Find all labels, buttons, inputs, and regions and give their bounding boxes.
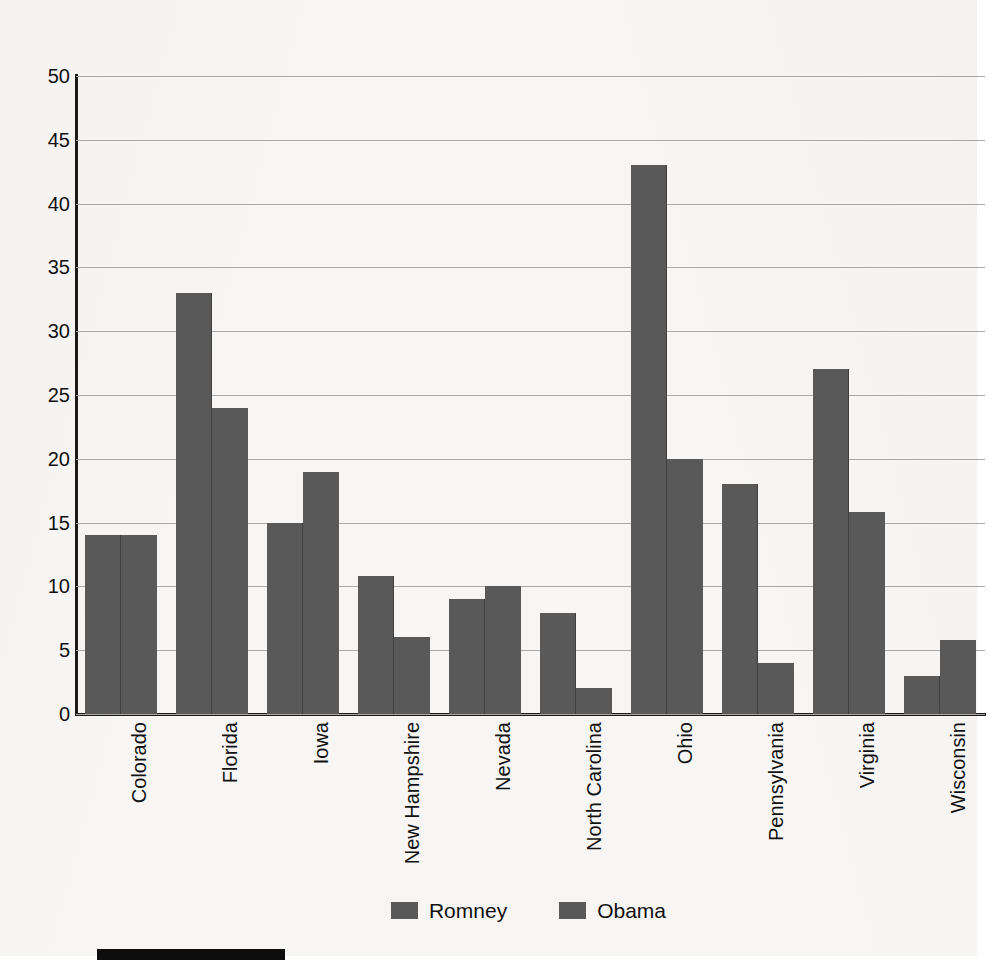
- bottom-rule: [97, 949, 285, 960]
- bar-nevada-romney: [449, 599, 485, 714]
- legend-swatch-obama: [559, 902, 586, 919]
- x-tick-label-colorado: Colorado: [129, 722, 149, 803]
- bar-nevada-obama: [485, 586, 521, 714]
- y-tick-label: 45: [40, 130, 70, 150]
- bar-wisconsin-romney: [904, 676, 940, 714]
- y-axis-tick-labels: 05101520253035404550: [40, 76, 70, 714]
- y-tick-label: 20: [40, 449, 70, 469]
- legend-label: Obama: [597, 900, 666, 921]
- x-tick-label-wisconsin: Wisconsin: [948, 722, 968, 813]
- bar-group: [167, 76, 258, 714]
- bar-colorado-romney: [85, 535, 121, 714]
- bar-ohio-romney: [631, 165, 667, 714]
- y-tick-label: 10: [40, 576, 70, 596]
- bar-new-hampshire-obama: [394, 637, 430, 714]
- bar-group: [894, 76, 985, 714]
- y-tick-label: 15: [40, 513, 70, 533]
- bar-group: [349, 76, 440, 714]
- bar-group: [712, 76, 803, 714]
- bar-virginia-romney: [813, 369, 849, 714]
- plot-area: [76, 76, 985, 714]
- x-tick-label-new-hampshire: New Hampshire: [402, 722, 422, 864]
- bar-iowa-romney: [267, 523, 303, 714]
- bar-virginia-obama: [849, 512, 885, 714]
- bar-florida-romney: [176, 293, 212, 714]
- y-tick-label: 5: [40, 640, 70, 660]
- bar-north-carolina-obama: [576, 688, 612, 714]
- legend-swatch-romney: [391, 902, 418, 919]
- y-tick-label: 25: [40, 385, 70, 405]
- legend-entry-obama[interactable]: Obama: [559, 900, 666, 921]
- bar-ohio-obama: [667, 459, 703, 714]
- x-axis-tick-labels: ColoradoFloridaIowaNew HampshireNevadaNo…: [76, 716, 985, 876]
- bar-colorado-obama: [121, 535, 157, 714]
- bar-group: [440, 76, 531, 714]
- y-tick-label: 35: [40, 257, 70, 277]
- y-tick-label: 0: [40, 704, 70, 724]
- legend-entry-romney[interactable]: Romney: [391, 900, 507, 921]
- bar-chart-figure: 05101520253035404550 ColoradoFloridaIowa…: [40, 16, 990, 964]
- y-tick-label: 30: [40, 321, 70, 341]
- bar-group: [803, 76, 894, 714]
- y-tick-label: 40: [40, 194, 70, 214]
- chart-legend: RomneyObama: [40, 900, 990, 921]
- x-tick-label-north-carolina: North Carolina: [584, 722, 604, 851]
- bar-pennsylvania-obama: [758, 663, 794, 714]
- legend-label: Romney: [429, 900, 507, 921]
- bar-pennsylvania-romney: [722, 484, 758, 714]
- bar-florida-obama: [212, 408, 248, 714]
- x-tick-label-florida: Florida: [220, 722, 240, 783]
- bar-new-hampshire-romney: [358, 576, 394, 714]
- x-tick-label-virginia: Virginia: [857, 722, 877, 788]
- x-tick-label-iowa: Iowa: [311, 722, 331, 764]
- bar-group: [621, 76, 712, 714]
- bar-wisconsin-obama: [940, 640, 976, 714]
- bar-group: [258, 76, 349, 714]
- x-tick-label-ohio: Ohio: [675, 722, 695, 764]
- bar-north-carolina-romney: [540, 613, 576, 714]
- bar-group: [531, 76, 622, 714]
- gridline: [76, 714, 985, 715]
- bar-group: [76, 76, 167, 714]
- y-tick-label: 50: [40, 66, 70, 86]
- x-tick-label-nevada: Nevada: [493, 722, 513, 791]
- bar-iowa-obama: [303, 472, 339, 714]
- x-tick-label-pennsylvania: Pennsylvania: [766, 722, 786, 841]
